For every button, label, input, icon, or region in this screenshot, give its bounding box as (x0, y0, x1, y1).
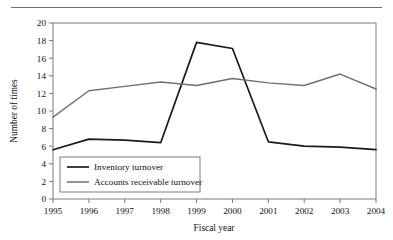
y-tick-label: 14 (37, 71, 47, 81)
x-tick-label: 1998 (151, 206, 170, 216)
y-tick-label: 18 (37, 36, 47, 46)
y-tick-label: 16 (37, 54, 47, 64)
x-tick-label: 2002 (295, 206, 314, 216)
y-tick-label: 12 (37, 89, 47, 99)
y-tick-label: 6 (41, 142, 46, 152)
series-group (53, 42, 376, 149)
legend-label-inventory-turnover: Inventory turnover (94, 162, 163, 172)
x-tick-label: 2003 (331, 206, 350, 216)
y-tick-label: 10 (37, 106, 47, 116)
y-axis-ticks: 02468101214161820 (37, 18, 53, 204)
y-tick-label: 20 (37, 18, 47, 28)
series-line-accounts-receivable-turnover (53, 74, 376, 117)
x-tick-label: 2000 (223, 206, 242, 216)
x-tick-label: 1996 (80, 206, 99, 216)
y-tick-label: 2 (41, 177, 46, 187)
legend-label-accounts-receivable-turnover: Accounts receivable turnover (94, 177, 202, 187)
x-axis-ticks: 1995199619971998199920002001200220032004 (44, 199, 386, 216)
y-tick-label: 0 (41, 194, 46, 204)
y-tick-label: 4 (41, 159, 46, 169)
y-tick-label: 8 (41, 124, 46, 134)
line-chart: 02468101214161820 1995199619971998199920… (0, 0, 393, 240)
y-axis-title: Number of times (9, 79, 19, 143)
x-tick-label: 1995 (44, 206, 63, 216)
chart-legend: Inventory turnover Accounts receivable t… (60, 157, 202, 192)
figure-container: 02468101214161820 1995199619971998199920… (0, 0, 393, 240)
x-tick-label: 1999 (187, 206, 206, 216)
x-axis-title: Fiscal year (194, 223, 236, 233)
x-tick-label: 1997 (116, 206, 135, 216)
x-tick-label: 2001 (259, 206, 278, 216)
x-tick-label: 2004 (367, 206, 386, 216)
series-line-inventory-turnover (53, 42, 376, 149)
